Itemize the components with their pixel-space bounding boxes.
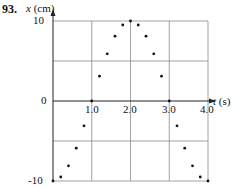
data-point <box>168 100 171 103</box>
data-point <box>137 24 140 27</box>
data-point <box>129 20 132 23</box>
y-axis-arrow-icon <box>51 9 56 16</box>
data-point <box>83 124 86 127</box>
data-point <box>59 176 62 179</box>
x-axis-arrow-icon <box>209 99 216 104</box>
data-point <box>191 164 194 167</box>
data-point <box>67 164 70 167</box>
data-point <box>75 147 78 150</box>
data-point <box>160 75 163 78</box>
data-point <box>145 35 148 38</box>
data-point <box>183 147 186 150</box>
data-point <box>207 180 210 183</box>
data-point <box>199 176 202 179</box>
data-point <box>90 100 93 103</box>
data-point <box>152 52 155 55</box>
data-point <box>121 24 124 27</box>
data-point <box>114 35 117 38</box>
scatter-plot <box>0 0 237 187</box>
data-point <box>98 75 101 78</box>
data-point <box>106 52 109 55</box>
data-point <box>176 124 179 127</box>
data-point <box>52 180 55 183</box>
